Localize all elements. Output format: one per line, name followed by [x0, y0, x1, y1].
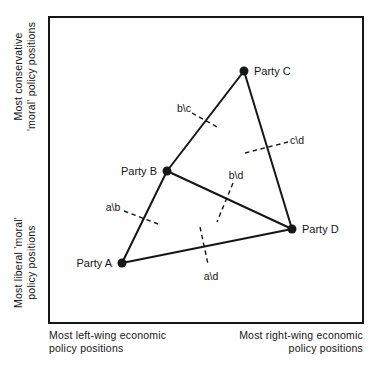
x-axis-left-label-line2: policy positions	[49, 342, 166, 355]
party-d-label: Party D	[302, 223, 339, 235]
party-c-label: Party C	[254, 65, 291, 77]
x-axis-right-label: Most right-wing economic policy position…	[239, 329, 363, 354]
x-axis-left-label: Most left-wing economic policy positions	[49, 329, 166, 354]
cleavage-ab-label: a\b	[106, 201, 121, 213]
diagram-canvas: a\bb\cc\db\da\dParty AParty BParty CPart…	[0, 0, 380, 370]
edge-cd-line	[244, 71, 292, 229]
x-axis-left-label-line1: Most left-wing economic	[49, 329, 166, 342]
edge-ad-line	[122, 229, 292, 263]
y-axis-top-label-line1: Most conservative	[12, 17, 25, 137]
y-axis-bottom-label-line1: Most liberal 'moral'	[12, 203, 25, 323]
cleavage-cd-label: c\d	[290, 134, 304, 146]
y-axis-top-label: Most conservative 'moral' policy positio…	[12, 17, 37, 137]
cleavage-bd-label: b\d	[229, 169, 244, 181]
party-a-dot	[118, 259, 127, 268]
party-c-dot	[240, 67, 249, 76]
y-axis-bottom-label-line2: policy positions	[24, 203, 37, 323]
edge-ab-line	[122, 171, 167, 263]
party-b-dot	[163, 167, 172, 176]
cleavage-bc-label: b\c	[177, 102, 191, 114]
y-axis-bottom-label: Most liberal 'moral' policy positions	[12, 203, 37, 323]
policy-space-figure: a\bb\cc\db\da\dParty AParty BParty CPart…	[0, 0, 380, 370]
x-axis-right-label-line1: Most right-wing economic	[239, 329, 363, 342]
x-axis-right-label-line2: policy positions	[239, 342, 363, 355]
party-b-label: Party B	[121, 165, 157, 177]
y-axis-top-label-line2: 'moral' policy positions	[24, 17, 37, 137]
edge-bc-line	[167, 71, 244, 171]
party-d-dot	[288, 225, 297, 234]
party-a-label: Party A	[77, 257, 113, 269]
cleavage-ad-label: a\d	[204, 270, 219, 282]
cleavage-bd-line	[217, 183, 233, 222]
